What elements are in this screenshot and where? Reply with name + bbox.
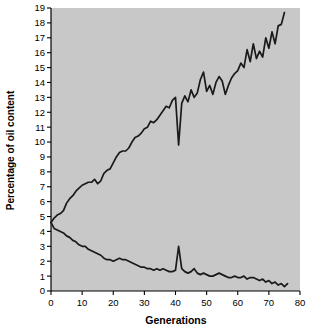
y-tick-label: 7 [40,181,45,192]
x-tick-label: 10 [77,297,88,308]
plot-area: 012345678910111213141516171819 010203040… [0,0,312,336]
x-tick-label: 70 [264,297,275,308]
oil-content-chart: Percentage of oil content 01234567891011… [0,0,312,336]
y-tick-label: 2 [40,256,45,267]
y-tick-label: 5 [40,211,45,222]
y-tick-label: 14 [34,77,45,88]
y-tick-label: 9 [40,151,45,162]
y-tick-label: 16 [34,47,45,58]
y-tick-label: 19 [34,2,45,13]
y-tick-label: 4 [40,226,45,237]
x-tick-label: 60 [232,297,243,308]
x-axis-ticks: 01020304050607080 [48,291,305,308]
x-tick-label: 40 [170,297,181,308]
y-tick-label: 10 [34,136,45,147]
y-tick-label: 18 [34,17,45,28]
y-tick-label: 6 [40,196,45,207]
y-axis-ticks: 012345678910111213141516171819 [34,2,51,296]
y-tick-label: 8 [40,166,45,177]
y-tick-label: 13 [34,92,45,103]
y-tick-label: 11 [35,122,45,133]
x-tick-label: 80 [295,297,306,308]
y-tick-label: 12 [34,107,45,118]
y-tick-label: 0 [40,285,45,296]
x-tick-label: 50 [201,297,212,308]
y-tick-label: 15 [34,62,45,73]
x-tick-label: 20 [108,297,119,308]
y-tick-label: 3 [40,241,45,252]
y-tick-label: 17 [34,32,45,43]
y-tick-label: 1 [40,271,45,282]
x-axis-title: Generations [51,314,301,326]
x-tick-label: 0 [48,297,53,308]
x-tick-label: 30 [139,297,150,308]
